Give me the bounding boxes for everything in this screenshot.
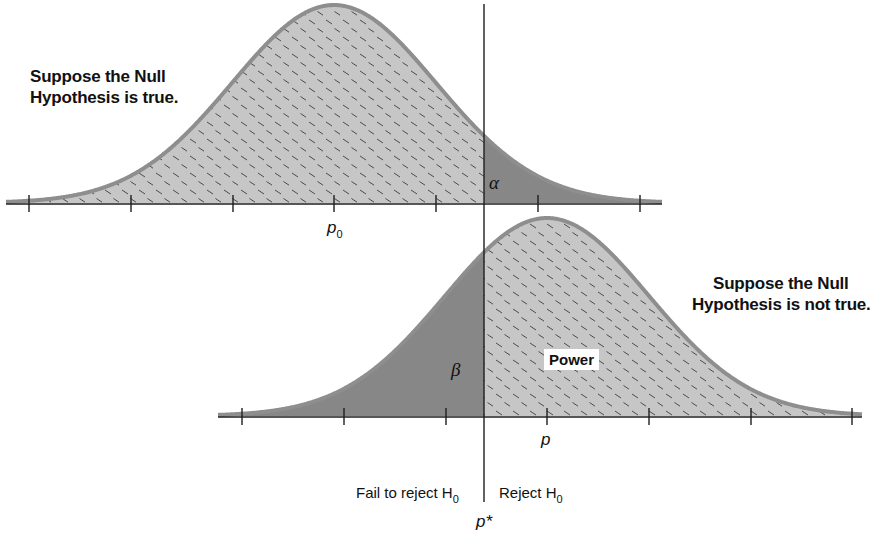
null-not-true-caption: Suppose the Null Hypothesis is not true.	[710, 273, 871, 315]
null-true-caption: Suppose the Null Hypothesis is true.	[30, 66, 178, 108]
h0-subscript: 0	[557, 493, 563, 505]
alpha-label: α	[489, 172, 499, 194]
region-dark-1	[218, 252, 484, 416]
p0-subscript: 0	[336, 228, 342, 240]
power-label: Power	[544, 349, 599, 370]
region-dark-0	[484, 136, 662, 203]
caption-line-1: Suppose the Null	[710, 273, 871, 294]
caption-line-2: Hypothesis is true.	[30, 87, 178, 108]
caption-line-2: Hypothesis is not true.	[692, 294, 871, 315]
h0-subscript: 0	[453, 493, 459, 505]
p-label: p	[541, 430, 550, 450]
reject-label: Reject H0	[499, 484, 563, 501]
power-diagram: Suppose the Null Hypothesis is true. α p…	[0, 0, 880, 544]
p0-label: p0	[327, 218, 343, 238]
region-hatch-1	[484, 218, 862, 416]
caption-line-1: Suppose the Null	[30, 66, 178, 87]
fail-to-reject-label: Fail to reject H0	[356, 484, 459, 501]
fail-to-reject-text: Fail to reject H	[356, 484, 453, 501]
critical-value-label: p*	[476, 512, 492, 532]
beta-label: β	[451, 359, 460, 381]
reject-text: Reject H	[499, 484, 557, 501]
